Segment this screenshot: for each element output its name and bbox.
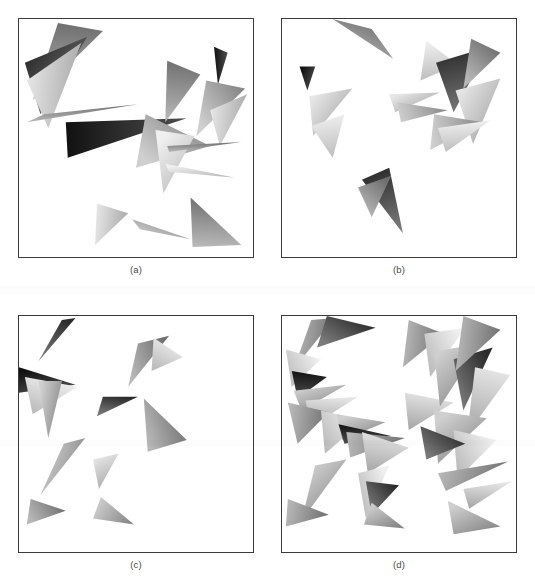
triangle — [132, 219, 191, 239]
triangle — [448, 501, 501, 534]
triangle — [40, 438, 85, 495]
panel-a-caption: (a) — [18, 264, 254, 275]
panel-d-frame — [281, 315, 517, 553]
panel-b-frame — [281, 18, 517, 258]
triangle — [300, 67, 316, 91]
triangle — [463, 481, 512, 509]
triangle — [156, 130, 195, 193]
panel-d-canvas — [282, 316, 516, 552]
panel-b-canvas — [282, 19, 516, 257]
triangle — [97, 397, 138, 417]
panel-c-caption: (c) — [18, 559, 254, 570]
figure-panel-grid: (a) (b) (c) (d) — [0, 0, 535, 588]
panel-d-caption: (d) — [281, 559, 517, 570]
triangle — [39, 318, 76, 361]
triangle — [95, 203, 128, 245]
panel-c-frame — [18, 315, 254, 553]
triangle — [214, 47, 228, 85]
triangle — [152, 338, 183, 371]
triangle — [317, 316, 376, 347]
triangle — [27, 499, 66, 525]
triangle — [144, 399, 187, 452]
triangle — [165, 61, 200, 122]
panel-a-canvas — [19, 19, 253, 257]
triangle — [191, 198, 242, 248]
triangle — [93, 497, 134, 525]
panel-a-frame — [18, 18, 254, 258]
scan-tone-band-upper — [0, 286, 535, 294]
triangle — [333, 19, 393, 59]
triangle — [165, 164, 235, 178]
panel-b-caption: (b) — [281, 264, 517, 275]
triangle — [93, 454, 118, 489]
triangle — [39, 381, 62, 438]
panel-c-canvas — [19, 316, 253, 552]
